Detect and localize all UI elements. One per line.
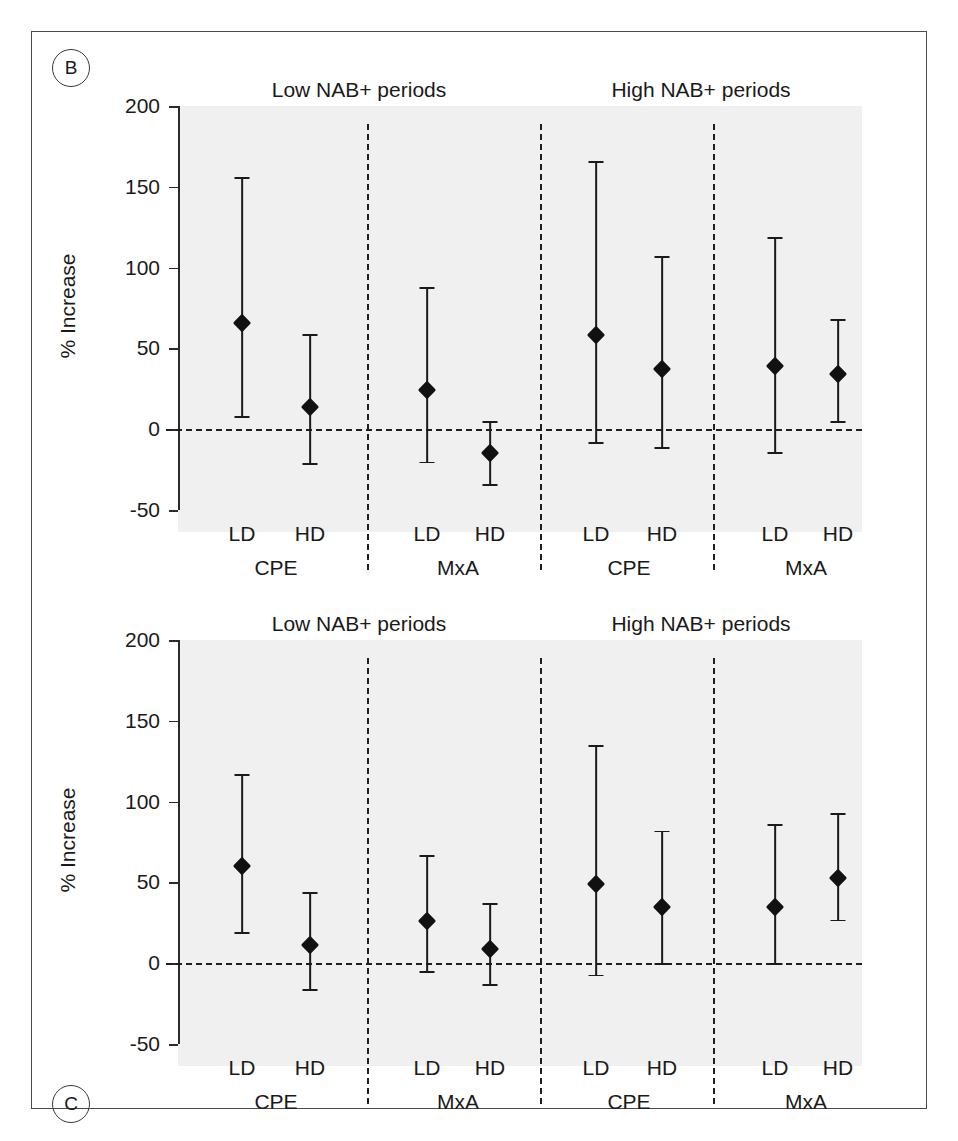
y-axis-tick-label: 100 — [90, 256, 160, 280]
x-axis-group-label: CPE — [254, 1090, 297, 1114]
error-bar-lower-cap — [420, 971, 435, 973]
y-axis-tick-label: 200 — [90, 94, 160, 118]
y-axis-tick — [169, 640, 178, 642]
x-axis-group-label: CPE — [254, 556, 297, 580]
error-bar-upper-cap — [483, 903, 498, 905]
error-bar-stem — [661, 256, 663, 447]
plot-area-background — [178, 640, 862, 1066]
group-separator — [367, 658, 369, 1104]
x-axis-group-label: MxA — [785, 1090, 827, 1114]
group-separator — [713, 658, 715, 1104]
error-bar-lower-cap — [589, 442, 604, 444]
x-axis-tick-label: LD — [229, 1056, 256, 1080]
x-axis-tick-label: LD — [583, 522, 610, 546]
y-axis-line — [178, 640, 180, 1044]
y-axis-tick — [169, 106, 178, 108]
section-title: Low NAB+ periods — [199, 612, 519, 636]
error-bar-lower-cap — [655, 963, 670, 965]
x-axis-tick-label: HD — [295, 522, 325, 546]
error-bar-lower-cap — [831, 920, 846, 922]
y-axis-title: % Increase — [56, 216, 80, 396]
x-axis-tick-label: LD — [414, 522, 441, 546]
error-bar-stem — [774, 237, 776, 452]
error-bar-lower-cap — [768, 452, 783, 454]
error-bar-upper-cap — [235, 774, 250, 776]
error-bar-stem — [241, 774, 243, 932]
y-axis-tick — [169, 268, 178, 270]
y-axis-tick-label: 150 — [90, 175, 160, 199]
panel-tag-c: C — [52, 1085, 90, 1123]
y-axis-tick-label: 0 — [90, 417, 160, 441]
x-axis-tick-label: LD — [583, 1056, 610, 1080]
x-axis-group-label: MxA — [437, 556, 479, 580]
zero-reference-line — [166, 429, 862, 431]
error-bar-lower-cap — [303, 463, 318, 465]
section-title: Low NAB+ periods — [199, 78, 519, 102]
x-axis-tick-label: HD — [647, 522, 677, 546]
x-axis-group-label: MxA — [437, 1090, 479, 1114]
x-axis-tick-label: HD — [475, 1056, 505, 1080]
error-bar-upper-cap — [768, 824, 783, 826]
error-bar-upper-cap — [303, 334, 318, 336]
error-bar-lower-cap — [483, 484, 498, 486]
y-axis-tick — [169, 1044, 178, 1046]
error-bar-lower-cap — [235, 932, 250, 934]
x-axis-tick-label: LD — [762, 522, 789, 546]
y-axis-tick-label: -50 — [90, 1032, 160, 1056]
x-axis-group-label: MxA — [785, 556, 827, 580]
error-bar-stem — [426, 287, 428, 462]
error-bar-upper-cap — [831, 319, 846, 321]
y-axis-tick — [169, 802, 178, 804]
section-separator — [540, 658, 542, 1104]
group-separator — [367, 124, 369, 570]
y-axis-tick — [169, 882, 178, 884]
x-axis-group-label: CPE — [607, 1090, 650, 1114]
error-bar-upper-cap — [420, 287, 435, 289]
error-bar-stem — [595, 745, 597, 974]
error-bar-lower-cap — [768, 963, 783, 965]
error-bar-upper-cap — [589, 161, 604, 163]
y-axis-tick-label: -50 — [90, 498, 160, 522]
y-axis-tick-label: 150 — [90, 709, 160, 733]
x-axis-tick-label: HD — [823, 522, 853, 546]
y-axis-tick-label: 200 — [90, 628, 160, 652]
error-bar-upper-cap — [831, 813, 846, 815]
error-bar-stem — [837, 813, 839, 920]
error-bar-upper-cap — [420, 855, 435, 857]
x-axis-tick-label: LD — [414, 1056, 441, 1080]
error-bar-upper-cap — [768, 237, 783, 239]
x-axis-tick-label: HD — [475, 522, 505, 546]
x-axis-tick-label: LD — [229, 522, 256, 546]
section-title: High NAB+ periods — [541, 78, 861, 102]
error-bar-lower-cap — [483, 984, 498, 986]
error-bar-stem — [595, 161, 597, 442]
panel-tag-b: B — [52, 49, 90, 87]
x-axis-tick-label: HD — [823, 1056, 853, 1080]
error-bar-stem — [774, 824, 776, 963]
error-bar-upper-cap — [589, 745, 604, 747]
y-axis-tick — [169, 187, 178, 189]
y-axis-title: % Increase — [56, 750, 80, 930]
y-axis-line — [178, 106, 180, 510]
error-bar-lower-cap — [831, 421, 846, 423]
section-title: High NAB+ periods — [541, 612, 861, 636]
error-bar-stem — [241, 177, 243, 416]
x-axis-tick-label: LD — [762, 1056, 789, 1080]
y-axis-tick — [169, 721, 178, 723]
error-bar-lower-cap — [589, 975, 604, 977]
y-axis-tick-label: 50 — [90, 870, 160, 894]
x-axis-tick-label: HD — [647, 1056, 677, 1080]
error-bar-upper-cap — [655, 256, 670, 258]
x-axis-tick-label: HD — [295, 1056, 325, 1080]
y-axis-tick — [169, 510, 178, 512]
section-separator — [540, 124, 542, 570]
y-axis-tick-label: 0 — [90, 951, 160, 975]
error-bar-upper-cap — [235, 177, 250, 179]
error-bar-lower-cap — [235, 416, 250, 418]
zero-reference-line — [166, 963, 862, 965]
plot-area-background — [178, 106, 862, 532]
error-bar-upper-cap — [655, 831, 670, 833]
error-bar-upper-cap — [303, 892, 318, 894]
error-bar-upper-cap — [483, 421, 498, 423]
error-bar-lower-cap — [303, 989, 318, 991]
